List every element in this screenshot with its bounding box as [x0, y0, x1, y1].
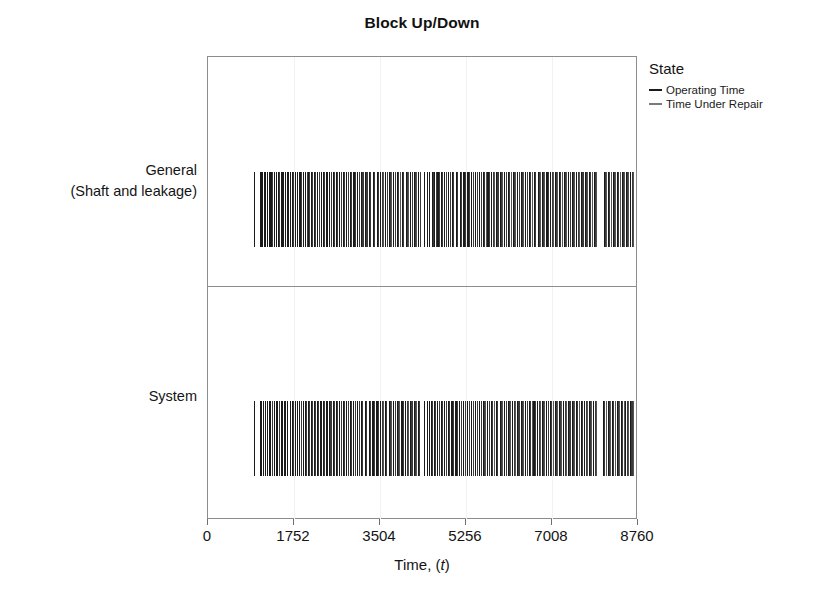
- x-axis-tick-label: 5256: [425, 527, 505, 544]
- state-bar: [562, 172, 563, 247]
- state-bar: [403, 172, 404, 247]
- state-bar: [579, 172, 580, 247]
- state-bar: [318, 401, 319, 476]
- state-bar: [624, 172, 625, 247]
- state-bar: [295, 401, 296, 476]
- x-axis-tick: [207, 519, 208, 525]
- state-bar: [306, 401, 307, 476]
- x-axis-tick: [465, 519, 466, 525]
- state-bar: [582, 172, 583, 247]
- x-axis-title-text: Time, (t): [394, 556, 449, 573]
- state-bar: [303, 172, 304, 247]
- row-label-system-line1: System: [0, 386, 197, 407]
- state-bar: [506, 172, 507, 247]
- state-bar: [606, 401, 607, 476]
- state-bar: [297, 401, 298, 476]
- state-bar: [362, 401, 363, 476]
- state-bar: [287, 401, 288, 476]
- state-bar: [519, 172, 520, 247]
- state-bar: [606, 172, 607, 247]
- state-bar: [387, 172, 388, 247]
- state-bar: [370, 172, 371, 247]
- state-bar: [435, 401, 436, 476]
- state-bar: [557, 172, 558, 247]
- state-bar: [624, 401, 625, 476]
- state-bar: [620, 172, 621, 247]
- state-bar: [366, 401, 367, 476]
- state-bar: [489, 401, 490, 476]
- state-bar: [411, 401, 412, 476]
- row-label-general-line1: General: [0, 160, 197, 181]
- state-bar: [506, 401, 507, 476]
- state-bar: [351, 401, 352, 476]
- state-bar: [395, 172, 396, 247]
- state-bar: [285, 172, 286, 247]
- state-bar: [523, 172, 524, 247]
- state-bar: [535, 172, 536, 247]
- state-bar: [502, 401, 503, 476]
- state-bar: [518, 401, 519, 476]
- state-bar: [446, 172, 447, 247]
- state-bar: [489, 172, 490, 247]
- state-bar: [497, 401, 498, 476]
- state-bar: [535, 401, 536, 476]
- state-bar: [442, 172, 443, 247]
- state-bar: [267, 172, 268, 247]
- state-bar: [494, 172, 495, 247]
- state-bar: [276, 401, 277, 476]
- state-bar: [511, 172, 512, 247]
- state-bar: [610, 401, 611, 476]
- state-bar: [633, 172, 634, 247]
- legend-item[interactable]: Operating Time: [649, 83, 809, 97]
- state-bar: [391, 172, 392, 247]
- state-bar: [370, 401, 371, 476]
- row-label-system: System: [0, 386, 197, 407]
- x-axis-tick-label: 1752: [253, 527, 333, 544]
- state-bar: [532, 401, 533, 476]
- state-bar: [315, 172, 316, 247]
- state-bar: [566, 401, 567, 476]
- state-bar: [272, 401, 273, 476]
- state-bar: [473, 172, 474, 247]
- state-bar: [596, 172, 597, 247]
- state-bar: [553, 401, 554, 476]
- state-bar: [290, 401, 291, 476]
- state-bar: [351, 172, 352, 247]
- state-bar: [395, 401, 396, 476]
- state-bar: [290, 172, 291, 247]
- state-bar: [429, 401, 430, 476]
- state-bar: [450, 172, 451, 247]
- state-bar: [461, 401, 462, 476]
- state-bar: [587, 401, 588, 476]
- state-bar: [527, 401, 528, 476]
- state-bar: [309, 172, 310, 247]
- legend-item[interactable]: Time Under Repair: [649, 97, 809, 111]
- state-bar: [312, 401, 313, 476]
- state-bar: [295, 172, 296, 247]
- state-bar: [481, 172, 482, 247]
- state-bar: [378, 172, 379, 247]
- state-bar: [279, 172, 280, 247]
- state-bar: [341, 401, 342, 476]
- state-bar: [469, 172, 470, 247]
- state-bar: [383, 401, 384, 476]
- state-bar: [287, 172, 288, 247]
- state-bar: [442, 401, 443, 476]
- state-bar: [383, 172, 384, 247]
- state-bar: [574, 401, 575, 476]
- state-bar: [261, 401, 262, 476]
- state-bar: [344, 172, 345, 247]
- state-bar: [307, 172, 308, 247]
- state-bar: [420, 172, 421, 247]
- state-bar: [619, 401, 620, 476]
- state-bar: [254, 401, 255, 476]
- state-bar: [265, 401, 266, 476]
- state-bar: [399, 401, 400, 476]
- state-bar: [303, 401, 304, 476]
- state-bar: [515, 401, 516, 476]
- x-axis-tick-label: 7008: [511, 527, 591, 544]
- state-bar: [416, 172, 417, 247]
- state-bar: [628, 401, 629, 476]
- state-bar: [312, 172, 313, 247]
- panel-system: [208, 286, 636, 519]
